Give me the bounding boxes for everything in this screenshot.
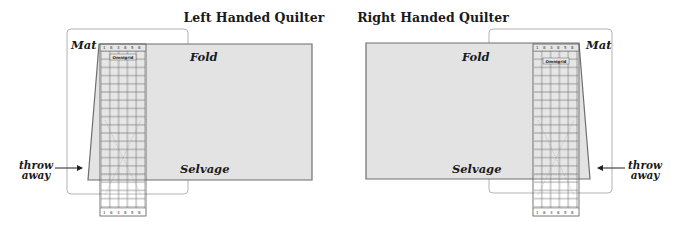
ruler-brand: Omnigrid [546,59,567,64]
quilting-diagram: Left Handed Quilter Mat Fold Selvage 1 8… [0,0,682,229]
throw-away-label-line2: away [631,169,661,181]
fold-label: Fold [461,50,490,64]
ruler-brand: Omnigrid [113,55,134,60]
ruler-grid [534,51,578,208]
selvage-label: Selvage [452,162,501,176]
fold-label: Fold [189,50,218,64]
right-handed-panel: Right Handed Quilter Mat Fold Selvage 1 … [357,10,663,216]
ruler: 1 8 3 8 5 8 Omnigrid 1 8 3 8 5 8 [533,44,579,216]
mat-label: Mat [585,38,612,52]
throw-away-label-line2: away [22,169,52,181]
left-handed-panel: Left Handed Quilter Mat Fold Selvage 1 8… [19,10,325,216]
ruler-grid [101,51,145,208]
panel-title: Right Handed Quilter [357,10,509,25]
ruler: 1 8 3 8 5 8 Omnigrid 1 8 3 8 5 8 [100,44,146,216]
mat-label: Mat [70,38,97,52]
panel-title: Left Handed Quilter [184,10,325,25]
selvage-label: Selvage [180,162,229,176]
